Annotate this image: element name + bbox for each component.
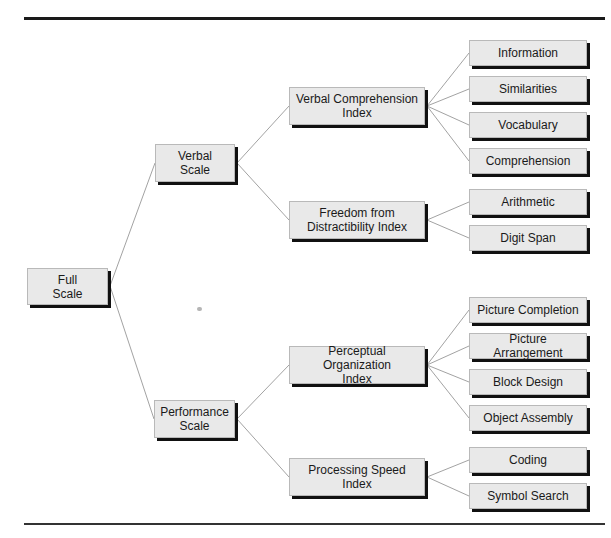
node-label: Block Design: [493, 375, 563, 389]
node-label: Picture Arrangement: [474, 332, 582, 360]
node-label: Information: [498, 46, 558, 60]
node-label: Processing Speed Index: [308, 463, 405, 491]
node-arithmetic: Arithmetic: [469, 189, 587, 215]
node-label: Verbal Comprehension Index: [296, 92, 418, 120]
node-full-scale: Full Scale: [27, 268, 108, 305]
node-label: Vocabulary: [498, 118, 557, 132]
node-label: Picture Completion: [477, 303, 578, 317]
node-picture-arrangement: Picture Arrangement: [469, 333, 587, 359]
node-verbal-scale: Verbal Scale: [155, 144, 235, 182]
node-label: Verbal Scale: [178, 149, 212, 177]
node-digit-span: Digit Span: [469, 225, 587, 251]
node-symbol-search: Symbol Search: [469, 483, 587, 509]
node-label: Similarities: [499, 82, 557, 96]
node-label: Object Assembly: [483, 411, 572, 425]
node-freedom-from-distractibility-index: Freedom from Distractibility Index: [289, 201, 425, 239]
node-block-design: Block Design: [469, 369, 587, 395]
node-comprehension: Comprehension: [469, 148, 587, 174]
node-label: Full Scale: [52, 273, 82, 301]
node-label: Performance Scale: [160, 405, 229, 433]
bottom-rule: [24, 523, 605, 525]
node-picture-completion: Picture Completion: [469, 297, 587, 323]
node-label: Comprehension: [486, 154, 571, 168]
node-label: Arithmetic: [501, 195, 554, 209]
node-information: Information: [469, 40, 587, 66]
node-similarities: Similarities: [469, 76, 587, 102]
node-vocabulary: Vocabulary: [469, 112, 587, 138]
node-perceptual-organization-index: Perceptual Organization Index: [289, 346, 425, 384]
node-label: Coding: [509, 453, 547, 467]
node-performance-scale: Performance Scale: [154, 400, 235, 438]
node-object-assembly: Object Assembly: [469, 405, 587, 431]
node-label: Digit Span: [500, 231, 555, 245]
stray-dot: [197, 307, 202, 311]
node-processing-speed-index: Processing Speed Index: [289, 458, 425, 496]
node-label: Perceptual Organization Index: [294, 344, 420, 386]
node-label: Symbol Search: [487, 489, 568, 503]
node-coding: Coding: [469, 447, 587, 473]
node-verbal-comprehension-index: Verbal Comprehension Index: [289, 87, 425, 125]
node-label: Freedom from Distractibility Index: [307, 206, 407, 234]
